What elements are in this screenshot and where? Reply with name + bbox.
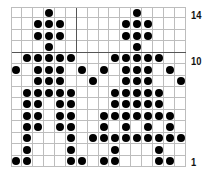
grid-cell (109, 18, 120, 29)
grid-cell (120, 7, 131, 18)
stitch-dot (144, 100, 152, 108)
grid-cell (55, 144, 66, 155)
stitch-dot (56, 112, 64, 120)
grid-cell (109, 64, 120, 75)
grid-cell (88, 53, 99, 64)
grid-cell (99, 98, 110, 109)
divider-vertical (76, 7, 77, 53)
grid-cell (99, 18, 110, 29)
stitch-dot (166, 157, 174, 165)
stitch-dot (45, 32, 53, 40)
grid-cell (11, 76, 22, 87)
grid-cell (99, 76, 110, 87)
grid-cell (164, 76, 175, 87)
grid-cell (77, 87, 88, 98)
grid-cell (88, 156, 99, 167)
grid-cell (11, 18, 22, 29)
stitch-dot (133, 20, 141, 28)
stitch-dot (122, 66, 130, 74)
grid-cell (175, 64, 186, 75)
row-label-10: 10 (191, 55, 201, 67)
grid-cell (88, 110, 99, 121)
stitch-dot (111, 112, 119, 120)
grid-cell (11, 87, 22, 98)
stitch-dot (67, 89, 75, 97)
grid-cell (77, 76, 88, 87)
knitting-chart-grid (11, 7, 186, 167)
grid-cell (153, 30, 164, 41)
grid-cell (11, 98, 22, 109)
grid-cell (164, 98, 175, 109)
grid-cell (22, 76, 33, 87)
grid-cell (11, 30, 22, 41)
stitch-dot (56, 32, 64, 40)
grid-cell (99, 30, 110, 41)
grid-cell (22, 18, 33, 29)
grid-cell (77, 110, 88, 121)
grid-cell (99, 53, 110, 64)
stitch-dot (166, 123, 174, 131)
stitch-dot (133, 100, 141, 108)
stitch-dot (67, 112, 75, 120)
grid-cell (153, 76, 164, 87)
grid-cell (175, 121, 186, 132)
grid-cell (175, 156, 186, 167)
grid-cell (164, 144, 175, 155)
grid-cell (175, 53, 186, 64)
stitch-dot (155, 89, 163, 97)
stitch-dot (133, 66, 141, 74)
grid-cell (88, 121, 99, 132)
stitch-dot (56, 89, 64, 97)
stitch-dot (122, 89, 130, 97)
grid-cell (77, 53, 88, 64)
stitch-dot (122, 112, 130, 120)
stitch-dot (133, 9, 141, 17)
stitch-dot (67, 146, 75, 154)
stitch-dot (111, 89, 119, 97)
grid-cell (22, 64, 33, 75)
grid-cell (164, 53, 175, 64)
stitch-dot (166, 66, 174, 74)
stitch-dot (133, 32, 141, 40)
stitch-dot (122, 100, 130, 108)
grid-cell (33, 156, 44, 167)
stitch-dot (144, 32, 152, 40)
grid-cell (11, 144, 22, 155)
stitch-dot (133, 112, 141, 120)
row-label-14: 14 (191, 9, 201, 21)
grid-cell (77, 18, 88, 29)
stitch-dot (144, 112, 152, 120)
grid-cell (44, 121, 55, 132)
grid-cell (88, 18, 99, 29)
grid-cell (175, 144, 186, 155)
grid-cell (44, 98, 55, 109)
stitch-dot (122, 123, 130, 131)
grid-cell (33, 133, 44, 144)
grid-cell (153, 121, 164, 132)
grid-cell (164, 18, 175, 29)
grid-cell (175, 87, 186, 98)
grid-cell (77, 133, 88, 144)
stitch-dot (155, 112, 163, 120)
stitch-dot (34, 112, 42, 120)
grid-cell (77, 30, 88, 41)
grid-cell (120, 144, 131, 155)
stitch-dot (45, 89, 53, 97)
grid-cell (164, 87, 175, 98)
grid-cell (66, 76, 77, 87)
grid-cell (77, 121, 88, 132)
grid-cell (109, 76, 120, 87)
stitch-dot (45, 9, 53, 17)
grid-cell (164, 7, 175, 18)
stitch-dot (100, 66, 108, 74)
stitch-dot (144, 66, 152, 74)
stitch-dot (144, 20, 152, 28)
grid-cell (11, 110, 22, 121)
stitch-dot (155, 100, 163, 108)
grid-cell (131, 144, 142, 155)
grid-cell (55, 156, 66, 167)
stitch-dot (133, 43, 141, 51)
grid-cell (109, 30, 120, 41)
grid-cell (11, 7, 22, 18)
stitch-dot (78, 66, 86, 74)
